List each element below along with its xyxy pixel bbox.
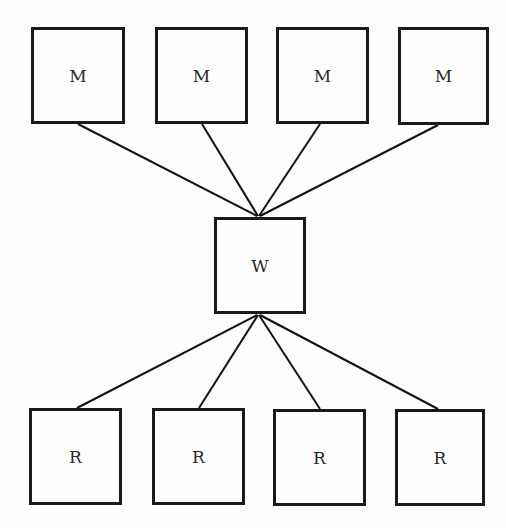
node-label: R	[313, 448, 326, 468]
node-label: R	[192, 447, 205, 467]
edge-w-r4	[260, 315, 438, 409]
edge-m3-w	[259, 124, 320, 216]
node-r4: R	[395, 409, 485, 506]
node-label: M	[314, 66, 331, 86]
diagram-canvas: M M M M W R R R R	[0, 0, 506, 528]
node-label: R	[69, 447, 82, 467]
node-r2: R	[152, 408, 245, 505]
node-label: W	[251, 256, 268, 276]
node-m1: M	[31, 27, 125, 124]
node-label: M	[435, 66, 452, 86]
edge-w-r3	[259, 315, 320, 409]
node-m3: M	[276, 27, 369, 124]
edge-m4-w	[260, 125, 438, 216]
node-r1: R	[29, 408, 122, 505]
node-label: M	[193, 66, 210, 86]
edge-w-r1	[77, 315, 257, 408]
node-label: R	[434, 448, 447, 468]
node-hub-w: W	[214, 217, 306, 314]
node-r3: R	[273, 409, 366, 506]
node-m4: M	[398, 27, 489, 125]
node-m2: M	[155, 27, 248, 124]
node-label: M	[69, 66, 86, 86]
